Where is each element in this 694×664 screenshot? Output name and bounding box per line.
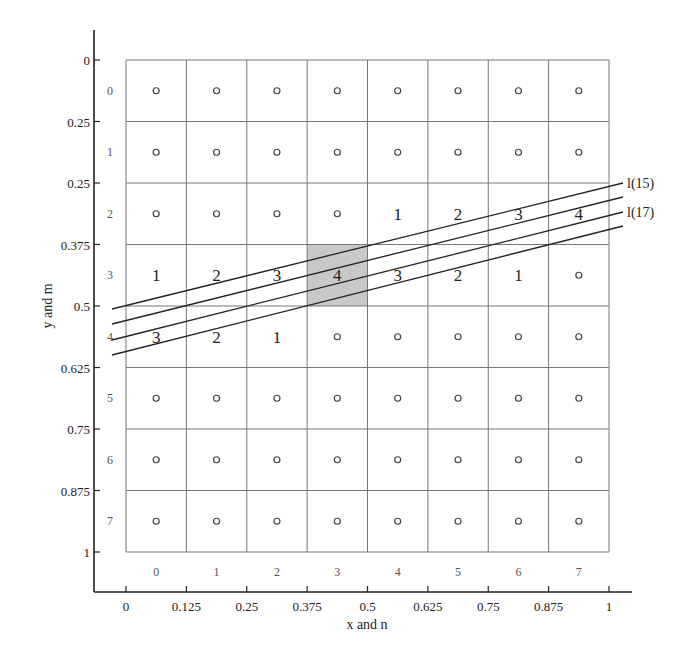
pixel-center-marker — [515, 457, 521, 463]
x-tick-label: 0.125 — [172, 599, 201, 614]
y-tick-label: 0.875 — [61, 484, 90, 499]
x-tick-label: 0.875 — [534, 599, 563, 614]
y-tick-label: 0.375 — [61, 238, 90, 253]
pixel-center-marker — [334, 149, 340, 155]
n-index-label: 0 — [153, 565, 159, 579]
pixel-center-marker — [153, 395, 159, 401]
y-tick-label: 0.25 — [67, 176, 90, 191]
x-tick-label: 0.5 — [359, 599, 375, 614]
axes: 00.1250.250.3750.50.6250.750.875100.250.… — [61, 30, 632, 614]
cell-weight-number: 1 — [273, 328, 282, 347]
pixel-center-marker — [395, 395, 401, 401]
pixel-center-marker — [455, 88, 461, 94]
pixel-center-marker — [153, 457, 159, 463]
pixel-center-marker — [576, 457, 582, 463]
ray-lines: l(15)l(17) — [112, 176, 655, 355]
pixel-center-marker — [455, 395, 461, 401]
y-tick-label: 0.5 — [74, 299, 90, 314]
pixel-center-marker — [153, 88, 159, 94]
x-tick-label: 0 — [123, 599, 130, 614]
m-index-label: 7 — [107, 514, 113, 528]
pixel-center-marker — [395, 88, 401, 94]
m-index-label: 4 — [107, 330, 113, 344]
pixel-center-marker — [334, 88, 340, 94]
pixel-center-marker — [334, 457, 340, 463]
pixel-center-marker — [274, 149, 280, 155]
x-axis-title: x and n — [346, 617, 387, 632]
pixel-center-marker — [515, 334, 521, 340]
x-tick-label: 1 — [606, 599, 613, 614]
cell-weight-number: 1 — [514, 266, 523, 285]
pixel-center-marker — [395, 518, 401, 524]
pixel-center-marker — [576, 149, 582, 155]
pixel-center-marker — [455, 518, 461, 524]
pixel-center-marker — [395, 149, 401, 155]
y-tick-label: 0.625 — [61, 361, 90, 376]
pixel-center-marker — [153, 149, 159, 155]
pixel-center-marker — [214, 395, 220, 401]
n-index-label: 1 — [214, 565, 220, 579]
cell-weight-number: 2 — [454, 266, 463, 285]
x-tick-label: 0.375 — [293, 599, 322, 614]
pixel-center-marker — [334, 334, 340, 340]
m-index-label: 0 — [107, 84, 113, 98]
pixel-center-marker — [334, 211, 340, 217]
pixel-center-marker — [515, 88, 521, 94]
m-index-label: 1 — [107, 145, 113, 159]
ray-line-label: l(15) — [627, 176, 655, 192]
pixel-center-marker — [274, 518, 280, 524]
pixel-center-marker — [274, 88, 280, 94]
x-tick-label: 0.25 — [235, 599, 258, 614]
n-index-label: 4 — [395, 565, 401, 579]
pixel-center-marker — [274, 211, 280, 217]
m-index-label: 5 — [107, 391, 113, 405]
pixel-center-marker — [455, 149, 461, 155]
y-tick-label: 0.75 — [67, 422, 90, 437]
y-tick-label: 0.25 — [67, 115, 90, 130]
pixel-center-marker — [576, 88, 582, 94]
pixel-grid — [126, 60, 609, 552]
m-index-label: 2 — [107, 207, 113, 221]
x-tick-label: 0.75 — [477, 599, 500, 614]
pixel-center-marker — [455, 457, 461, 463]
pixel-line-diagram: 00.1250.250.3750.50.6250.750.875100.250.… — [0, 0, 694, 664]
pixel-center-marker — [334, 518, 340, 524]
pixel-center-marker — [576, 518, 582, 524]
m-index-label: 6 — [107, 453, 113, 467]
n-index-label: 6 — [515, 565, 521, 579]
pixel-center-marker — [515, 518, 521, 524]
pixel-center-marker — [576, 395, 582, 401]
y-tick-label: 1 — [84, 545, 91, 560]
n-index-label: 7 — [576, 565, 582, 579]
cell-weight-number: 1 — [152, 266, 161, 285]
pixel-center-marker — [214, 149, 220, 155]
pixel-center-marker — [515, 149, 521, 155]
cell-weight-number: 2 — [212, 328, 221, 347]
pixel-center-marker — [153, 518, 159, 524]
pixel-center-marker — [153, 211, 159, 217]
pixel-center-marker — [455, 334, 461, 340]
pixel-center-marker — [334, 395, 340, 401]
pixel-center-marker — [395, 334, 401, 340]
ray-line-label: l(17) — [627, 205, 655, 221]
pixel-center-marker — [214, 211, 220, 217]
pixel-center-marker — [214, 88, 220, 94]
y-tick-label: 0 — [84, 53, 91, 68]
m-index-label: 3 — [107, 268, 113, 282]
pixel-center-marker — [515, 395, 521, 401]
n-index-label: 3 — [334, 565, 340, 579]
pixel-center-marker — [214, 518, 220, 524]
pixel-center-marker — [274, 457, 280, 463]
pixel-center-marker — [576, 272, 582, 278]
pixel-center-marker — [214, 457, 220, 463]
pixel-center-marker — [576, 334, 582, 340]
n-index-label: 2 — [274, 565, 280, 579]
cell-weight-number: 2 — [454, 205, 463, 224]
n-index-label: 5 — [455, 565, 461, 579]
pixel-center-marker — [274, 395, 280, 401]
pixel-center-marker — [395, 457, 401, 463]
y-axis-title: y and m — [40, 283, 55, 328]
x-tick-label: 0.625 — [413, 599, 442, 614]
cell-weight-number: 1 — [393, 205, 402, 224]
